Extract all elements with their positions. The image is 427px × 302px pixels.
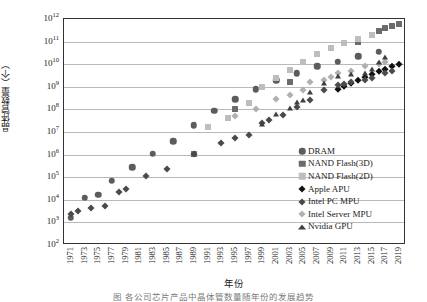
legend-item[interactable]: Intel Server MPU bbox=[296, 208, 404, 221]
x-tick-label: 2013 bbox=[353, 247, 362, 264]
legend-item-label: Apple APU bbox=[308, 185, 350, 194]
data-point bbox=[272, 96, 279, 103]
x-tick-mark bbox=[139, 243, 140, 244]
data-point bbox=[300, 59, 306, 65]
x-tick-label: 1973 bbox=[79, 247, 88, 264]
x-tick-mark bbox=[221, 243, 222, 244]
x-axis-tick-labels: 1971197319751977197919811983198519871989… bbox=[63, 247, 405, 273]
legend-item[interactable]: Nvidia GPU bbox=[296, 221, 404, 234]
data-point bbox=[266, 116, 273, 123]
data-point bbox=[382, 25, 388, 31]
x-tick-label: 2005 bbox=[298, 247, 307, 264]
legend-item[interactable]: DRAM bbox=[296, 145, 404, 158]
data-point bbox=[314, 63, 321, 70]
data-point bbox=[205, 124, 211, 130]
triangle-icon bbox=[296, 221, 308, 233]
data-point bbox=[341, 40, 347, 46]
x-tick-label: 1977 bbox=[107, 247, 116, 264]
data-point bbox=[368, 74, 375, 81]
data-point bbox=[191, 122, 198, 129]
x-tick-label: 2001 bbox=[271, 247, 280, 264]
data-point bbox=[81, 195, 88, 202]
legend-item[interactable]: Intel PC MPU bbox=[296, 195, 404, 208]
x-tick-mark bbox=[194, 243, 195, 244]
square-marker bbox=[299, 161, 306, 168]
x-tick-label: 1981 bbox=[134, 247, 143, 264]
x-tick-mark bbox=[358, 243, 359, 244]
data-point bbox=[218, 140, 225, 147]
y-tick-label: 105 bbox=[47, 172, 59, 181]
x-tick-mark bbox=[317, 243, 318, 244]
x-tick-mark bbox=[372, 243, 373, 244]
circle-icon bbox=[296, 145, 308, 157]
data-point bbox=[335, 73, 341, 78]
x-tick-label: 1999 bbox=[257, 247, 266, 264]
x-tick-label: 1979 bbox=[120, 247, 129, 264]
x-tick-mark bbox=[303, 243, 304, 244]
x-tick-label: 1987 bbox=[175, 247, 184, 264]
y-tick-label: 109 bbox=[47, 81, 59, 90]
x-tick-mark bbox=[98, 243, 99, 244]
x-tick-mark bbox=[290, 243, 291, 244]
y-tick-label: 102 bbox=[47, 240, 59, 249]
gridline bbox=[64, 64, 404, 65]
data-point bbox=[307, 89, 313, 94]
x-tick-mark bbox=[71, 243, 72, 244]
y-tick-mark bbox=[63, 19, 64, 20]
data-point bbox=[163, 166, 170, 173]
data-point bbox=[362, 70, 368, 75]
diamond-icon bbox=[296, 183, 308, 195]
diamond-icon bbox=[296, 208, 308, 220]
data-point bbox=[252, 86, 259, 93]
legend-item[interactable]: NAND Flash(2D) bbox=[296, 170, 404, 183]
data-point bbox=[259, 121, 265, 126]
data-point bbox=[287, 67, 293, 73]
chart-legend: DRAMNAND Flash(3D)NAND Flash(2D)Apple AP… bbox=[296, 145, 404, 233]
y-tick-label: 106 bbox=[47, 149, 59, 158]
data-point bbox=[389, 23, 395, 29]
data-point bbox=[259, 84, 265, 90]
data-point bbox=[307, 79, 314, 86]
y-tick-mark bbox=[63, 87, 64, 88]
data-point bbox=[376, 59, 382, 64]
x-tick-mark bbox=[85, 243, 86, 244]
diamond-marker bbox=[298, 198, 305, 205]
legend-item[interactable]: Apple APU bbox=[296, 183, 404, 196]
x-tick-mark bbox=[180, 243, 181, 244]
y-tick-mark bbox=[63, 132, 64, 133]
data-point bbox=[355, 77, 362, 84]
legend-item-label: NAND Flash(3D) bbox=[308, 159, 373, 168]
figure-container: 晶体管数量（个） 1012101110101091081071061051041… bbox=[0, 0, 427, 302]
circle-marker bbox=[299, 148, 306, 155]
y-tick-label: 1010 bbox=[44, 59, 60, 68]
data-point bbox=[293, 70, 300, 77]
triangle-marker bbox=[298, 224, 306, 229]
y-tick-mark bbox=[63, 177, 64, 178]
data-point bbox=[231, 135, 238, 142]
x-tick-mark bbox=[126, 243, 127, 244]
data-point bbox=[321, 81, 327, 86]
data-point bbox=[396, 21, 402, 27]
data-point bbox=[74, 208, 81, 215]
data-point bbox=[122, 186, 129, 193]
y-tick-label: 1011 bbox=[44, 36, 59, 45]
legend-item[interactable]: NAND Flash(3D) bbox=[296, 158, 404, 171]
y-tick-label: 103 bbox=[47, 217, 59, 226]
x-tick-mark bbox=[208, 243, 209, 244]
x-tick-label: 2015 bbox=[367, 247, 376, 264]
data-point bbox=[287, 105, 293, 110]
data-point bbox=[142, 172, 149, 179]
data-point bbox=[150, 150, 157, 157]
data-point bbox=[382, 55, 388, 60]
y-tick-mark bbox=[63, 42, 64, 43]
x-tick-mark bbox=[276, 243, 277, 244]
y-tick-mark bbox=[63, 200, 64, 201]
data-point bbox=[246, 100, 252, 106]
legend-item-label: NAND Flash(2D) bbox=[308, 172, 373, 181]
x-tick-label: 1991 bbox=[202, 247, 211, 264]
data-point bbox=[109, 178, 116, 185]
x-tick-label: 2011 bbox=[339, 247, 348, 264]
diamond-icon bbox=[296, 196, 308, 208]
x-tick-mark bbox=[399, 243, 400, 244]
gridline bbox=[64, 87, 404, 88]
